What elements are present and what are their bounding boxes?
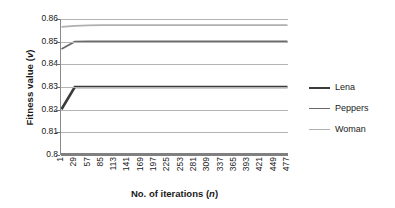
- gridline: [61, 132, 288, 133]
- x-axis-title-text: No. of iterations (: [131, 188, 209, 199]
- x-axis-title-tail: ): [215, 188, 218, 199]
- legend-item-lena[interactable]: Lena: [309, 82, 393, 103]
- x-tick-label: 57: [83, 157, 94, 166]
- x-tick-label: 1: [56, 157, 67, 162]
- gridline: [61, 153, 288, 156]
- x-tick-label: 393: [242, 157, 253, 171]
- gridline: [61, 110, 288, 111]
- x-tick-label: 421: [255, 157, 266, 171]
- gridline: [61, 87, 288, 88]
- y-axis-title-tail: ): [24, 49, 35, 52]
- legend-item-peppers[interactable]: Peppers: [309, 103, 393, 124]
- gridline: [61, 19, 288, 20]
- series-line-woman: [62, 25, 288, 27]
- y-tick-label: 0.86: [28, 14, 58, 23]
- x-tick-label: 85: [96, 157, 107, 166]
- x-tick-label: 337: [216, 157, 227, 171]
- x-tick-label: 309: [202, 157, 213, 171]
- y-axis-line: [60, 19, 61, 155]
- fitness-value-line-chart: Fitness value (v) 0.860.850.840.830.820.…: [0, 0, 395, 208]
- x-tick-label: 281: [189, 157, 200, 171]
- x-tick-label: 477: [282, 157, 293, 171]
- legend-item-woman[interactable]: Woman: [309, 124, 393, 145]
- x-axis-title: No. of iterations (n): [61, 188, 288, 199]
- gridline: [61, 64, 288, 65]
- y-tick-label: 0.85: [28, 37, 58, 46]
- y-tick-label: 0.84: [28, 59, 58, 68]
- y-tick-label: 0.81: [28, 127, 58, 136]
- legend-swatch-icon: [309, 108, 330, 109]
- y-tick-label: 0.83: [28, 82, 58, 91]
- legend-label: Peppers: [335, 103, 369, 114]
- plot-area: [61, 19, 288, 155]
- legend-label: Woman: [335, 124, 366, 135]
- x-tick-label: 253: [176, 157, 187, 171]
- chart-legend: LenaPeppersWoman: [309, 82, 393, 145]
- x-tick-label: 365: [229, 157, 240, 171]
- y-axis-title-variable: v: [24, 53, 35, 58]
- x-tick-label: 141: [122, 157, 133, 171]
- x-tick-label: 29: [69, 157, 80, 166]
- x-tick-label: 169: [136, 157, 147, 171]
- x-tick-label: 225: [162, 157, 173, 171]
- x-tick-label: 197: [149, 157, 160, 171]
- x-tick-label: 113: [109, 157, 120, 171]
- y-tick-label: 0.8: [28, 150, 58, 159]
- series-line-lena: [62, 87, 288, 109]
- gridline: [61, 42, 288, 43]
- x-tick-label: 449: [269, 157, 280, 171]
- legend-label: Lena: [335, 82, 355, 93]
- legend-swatch-icon: [309, 87, 330, 89]
- legend-swatch-icon: [309, 129, 330, 130]
- y-tick-label: 0.82: [28, 105, 58, 114]
